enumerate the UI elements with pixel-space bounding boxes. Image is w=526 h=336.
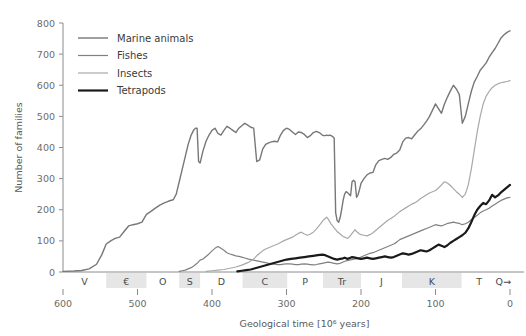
- legend-label-marine-animals: Marine animals: [117, 33, 193, 44]
- series-line-insects: [206, 81, 510, 272]
- y-tick-label: 500: [37, 111, 55, 122]
- period-label-P: P: [302, 276, 308, 287]
- period-label-O: O: [159, 276, 166, 287]
- y-tick-label: 300: [37, 173, 55, 184]
- period-label-€: €: [123, 276, 129, 287]
- period-label-D: D: [218, 276, 225, 287]
- x-tick-label: 400: [203, 298, 221, 309]
- y-tick-label: 700: [37, 49, 55, 60]
- x-axis-title: Geological time [10⁶ years]: [240, 318, 370, 329]
- y-tick-label: 400: [37, 142, 55, 153]
- series-line-tetrapods: [237, 185, 510, 272]
- x-tick-label: 500: [128, 298, 146, 309]
- figure-container: 0100200300400500600700800600500400300200…: [0, 0, 526, 336]
- period-label-J: J: [379, 276, 383, 287]
- y-axis-title: Number of families: [13, 102, 24, 193]
- y-tick-label: 200: [37, 204, 55, 215]
- y-tick-label: 600: [37, 80, 55, 91]
- x-tick-label: 0: [507, 298, 513, 309]
- x-tick-label: 200: [352, 298, 370, 309]
- y-tick-label: 0: [49, 267, 55, 278]
- y-tick-label: 100: [37, 235, 55, 246]
- period-label-C: C: [262, 276, 269, 287]
- legend-label-insects: Insects: [117, 68, 152, 79]
- period-label-T: T: [475, 276, 482, 287]
- series-line-fishes: [179, 197, 510, 271]
- chart-svg: 0100200300400500600700800600500400300200…: [0, 0, 526, 336]
- period-label-Q→: Q→: [496, 276, 511, 287]
- x-tick-label: 300: [277, 298, 295, 309]
- x-tick-label: 600: [54, 298, 72, 309]
- period-label-V: V: [81, 276, 88, 287]
- legend-label-tetrapods: Tetrapods: [116, 85, 166, 96]
- period-label-K: K: [429, 276, 436, 287]
- x-tick-label: 100: [426, 298, 444, 309]
- y-tick-label: 800: [37, 18, 55, 29]
- period-label-S: S: [187, 276, 193, 287]
- period-label-Tr: Tr: [337, 276, 346, 287]
- legend-label-fishes: Fishes: [117, 50, 148, 61]
